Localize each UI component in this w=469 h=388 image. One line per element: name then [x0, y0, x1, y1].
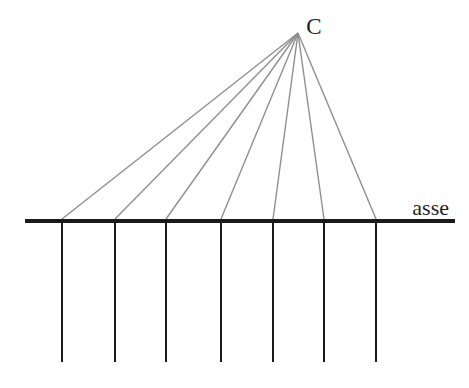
diagram-canvas: C asse [0, 0, 469, 388]
projection-rays-segment [273, 33, 298, 219]
central-projection-diagram: C asse [0, 0, 469, 388]
parallel-vertical-lines [62, 221, 376, 362]
projection-rays-segment [115, 33, 298, 219]
projection-rays [62, 33, 376, 219]
axis-label: asse [412, 195, 449, 220]
projection-rays-segment [62, 33, 298, 219]
projection-rays-segment [298, 33, 376, 219]
center-point-label: C [306, 14, 321, 39]
projection-rays-segment [298, 33, 324, 219]
